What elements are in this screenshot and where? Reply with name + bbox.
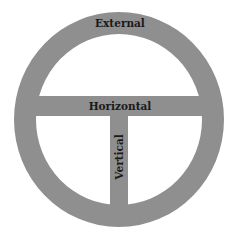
horizontal-bar: Horizontal (30, 96, 210, 116)
horizontal-label: Horizontal (89, 100, 152, 112)
vertical-label: Vertical (113, 134, 125, 179)
external-label: External (0, 17, 240, 29)
